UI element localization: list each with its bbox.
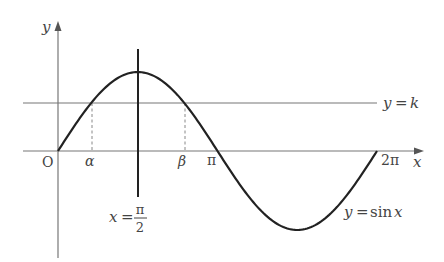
alpha-tick-label: α	[85, 153, 95, 169]
y-axis	[55, 21, 62, 258]
x-equals-pi-over-2-label: x = π 2	[109, 202, 147, 235]
y-equals-k-label: y = k	[382, 94, 419, 112]
y-axis-arrow-icon	[55, 21, 62, 31]
svg-text:x: x	[109, 208, 118, 226]
svg-text:y: y	[343, 203, 353, 221]
svg-text:sin: sin	[370, 203, 392, 221]
y-equals-sin-x-label: y = sin x	[343, 203, 403, 221]
svg-text:=: =	[395, 94, 408, 112]
two-pi-tick-label: 2π	[381, 152, 399, 168]
svg-text:y: y	[382, 94, 392, 112]
x-axis-label: x	[413, 153, 422, 171]
svg-text:=: =	[121, 208, 134, 226]
svg-text:=: =	[356, 203, 369, 221]
svg-text:k: k	[410, 94, 419, 112]
svg-text:π: π	[136, 202, 145, 217]
svg-text:2: 2	[136, 220, 144, 235]
origin-label: O	[42, 154, 53, 170]
sine-graph-diagram: y x O α β π 2π y = k y = sin x x = π 2	[0, 0, 444, 262]
svg-text:x: x	[394, 203, 403, 221]
y-axis-label: y	[41, 18, 51, 36]
beta-tick-label: β	[177, 153, 186, 169]
pi-tick-label: π	[207, 152, 216, 168]
x-axis	[23, 148, 424, 155]
